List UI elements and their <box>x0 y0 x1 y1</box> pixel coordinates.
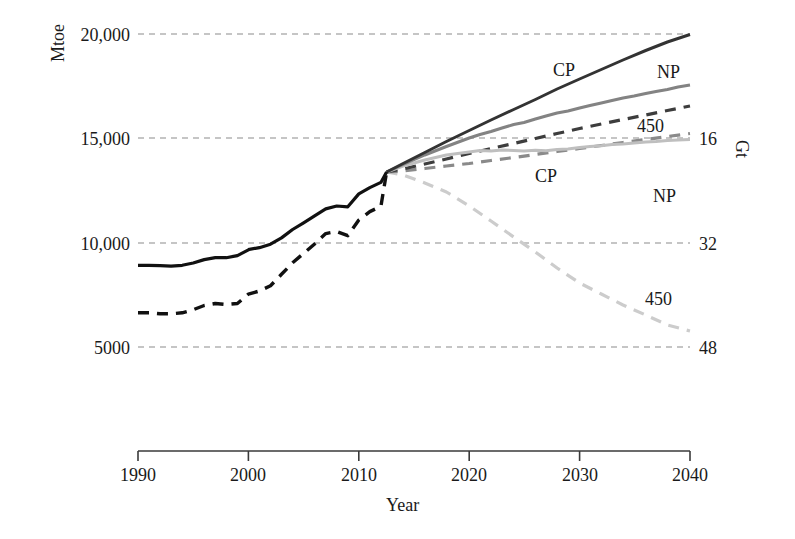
x-tick-label-2030: 2030 <box>550 466 610 484</box>
y2-tick-label-32: 32 <box>699 235 717 253</box>
chart-container: Mtoe Gt 20,000 15,000 10,000 5000 16 32 … <box>0 0 795 539</box>
series-label-co2-cp: CP <box>535 167 557 185</box>
energy-series-group <box>138 35 690 267</box>
series-label-co2-np: NP <box>653 187 676 205</box>
x-tick-label-1990: 1990 <box>108 466 168 484</box>
series-line-energy-historical <box>138 172 387 266</box>
series-label-energy-np: NP <box>657 63 680 81</box>
y-tick-label-10000: 10,000 <box>38 235 130 253</box>
x-tick-label-2020: 2020 <box>439 466 499 484</box>
x-tick-label-2000: 2000 <box>218 466 278 484</box>
series-label-energy-450: 450 <box>637 117 664 135</box>
y2-tick-label-16: 48 <box>699 339 717 357</box>
series-label-energy-cp: CP <box>553 61 575 79</box>
y-tick-label-5000: 5000 <box>38 339 130 357</box>
series-label-co2-450: 450 <box>645 290 672 308</box>
y2-tick-label-48: 16 <box>699 130 717 148</box>
y-tick-label-20000: 20,000 <box>38 26 130 44</box>
gridlines <box>138 34 690 347</box>
x-axis-title: Year <box>386 496 419 514</box>
co2-series-group <box>138 106 690 331</box>
x-tick-label-2010: 2010 <box>329 466 389 484</box>
x-axis <box>138 451 690 461</box>
x-tick-label-2040: 2040 <box>660 466 720 484</box>
y-axis-right-title: Gt <box>733 140 751 158</box>
y-tick-label-15000: 15,000 <box>38 130 130 148</box>
